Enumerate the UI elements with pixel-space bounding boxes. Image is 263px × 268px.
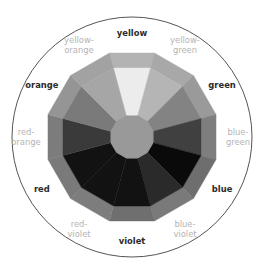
label-line: violet xyxy=(173,229,197,239)
label-line: green xyxy=(226,137,250,147)
label-line: red- xyxy=(71,219,88,229)
label-line: violet xyxy=(67,229,91,239)
label-line: blue- xyxy=(227,127,248,137)
label-blue-green: blue-green xyxy=(226,127,250,147)
label-line: orange xyxy=(25,80,58,90)
label-line: yellow- xyxy=(64,35,94,45)
label-line: yellow- xyxy=(170,35,200,45)
label-yellow-green: yellow-green xyxy=(170,35,200,55)
label-line: blue- xyxy=(174,219,195,229)
center-hub xyxy=(111,116,154,159)
label-orange: orange xyxy=(25,80,58,90)
label-line: orange xyxy=(11,137,40,147)
label-blue: blue xyxy=(212,184,233,194)
label-line: red xyxy=(34,184,50,194)
label-blue-violet: blue-violet xyxy=(173,219,197,239)
label-line: violet xyxy=(119,236,146,246)
label-line: green xyxy=(208,80,235,90)
label-line: blue xyxy=(212,184,233,194)
label-line: yellow xyxy=(117,28,148,38)
label-line: orange xyxy=(64,45,93,55)
label-red-violet: red-violet xyxy=(67,219,91,239)
label-yellow: yellow xyxy=(117,28,148,38)
label-line: green xyxy=(173,45,197,55)
ring-segment-yellow xyxy=(109,53,154,68)
label-yellow-orange: yellow-orange xyxy=(64,35,94,55)
label-violet: violet xyxy=(119,236,146,246)
label-line: red- xyxy=(18,127,35,137)
label-red-orange: red-orange xyxy=(11,127,40,147)
ring-segment-red-orange xyxy=(48,114,63,159)
label-green: green xyxy=(208,80,235,90)
ring-segment-violet xyxy=(109,206,154,221)
ring-segment-blue-green xyxy=(201,114,216,159)
label-red: red xyxy=(34,184,50,194)
color-wheel-diagram: yellowyellow-greengreenblue-greenblueblu… xyxy=(0,0,263,268)
